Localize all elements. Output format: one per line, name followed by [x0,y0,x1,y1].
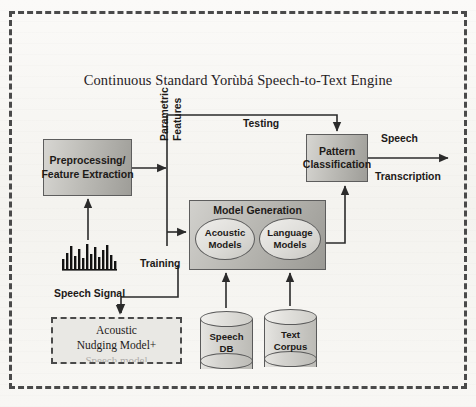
language-models-line2: Models [273,239,306,251]
text-corpus-line2: Corpus [264,341,317,353]
preprocessing-line2: Feature Extraction [41,168,133,181]
acoustic-nudging-line1: Acoustic [53,323,180,338]
speech-db-datastore[interactable]: Speech DB [200,311,253,377]
language-models-node[interactable]: Language Models [259,218,321,260]
transcription-output-label: Transcription [375,171,441,182]
speech-db-top [200,311,253,327]
pattern-classification-line2: Classification [303,158,371,171]
testing-label: Testing [243,118,279,129]
pattern-classification-box[interactable]: Pattern Classification [306,134,368,182]
speech-db-line2: DB [200,343,253,355]
acoustic-nudging-line3-clipped: Speech model [53,353,180,364]
acoustic-models-line2: Models [208,239,241,251]
diagram-canvas: Continuous Standard Yorùbá Speech-to-Tex… [0,0,476,407]
language-models-line1: Language [267,227,312,239]
text-corpus-label: Text Corpus [264,329,317,354]
training-label: Training [140,258,180,269]
acoustic-models-node[interactable]: Acoustic Models [195,218,255,260]
text-corpus-datastore[interactable]: Text Corpus [264,309,317,375]
preprocessing-line1: Preprocessing/ [50,154,126,167]
acoustic-nudging-model-box[interactable]: Acoustic Nudging Model+ Speech model [51,317,182,364]
parametric-features-line1: Parametric [158,51,171,141]
diagram-title: Continuous Standard Yorùbá Speech-to-Tex… [0,72,476,89]
acoustic-nudging-line2: Nudging Model+ [53,338,180,353]
preprocessing-feature-extraction-box[interactable]: Preprocessing/ Feature Extraction [43,139,132,196]
text-corpus-top [264,309,317,325]
audio-waveform-icon [62,243,120,273]
acoustic-models-line1: Acoustic [205,227,246,239]
model-generation-title: Model Generation [190,204,325,216]
speech-output-label: Speech [381,133,418,144]
speech-db-label: Speech DB [200,331,253,356]
speech-db-line1: Speech [200,331,253,343]
parametric-features-line2: Features [171,51,184,141]
parametric-features-label: Parametric Features [158,51,184,141]
text-corpus-line1: Text [264,329,317,341]
pattern-classification-line1: Pattern [319,145,355,158]
speech-signal-label: Speech Signal [54,288,125,299]
